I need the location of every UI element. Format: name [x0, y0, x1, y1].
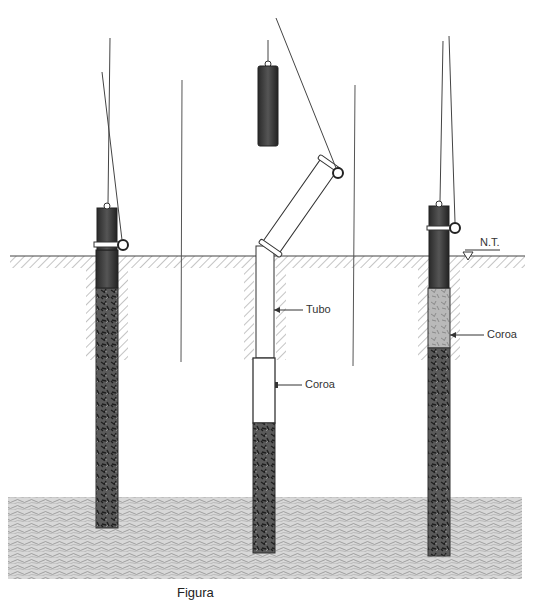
stage-2-tube-placement	[244, 18, 343, 553]
label-ground-level: N.T.	[480, 236, 500, 248]
stage-3-crown-driving	[418, 36, 500, 556]
guide-line-right	[353, 85, 355, 366]
label-tube: Tubo	[306, 303, 331, 315]
label-crown-middle: Coroa	[305, 378, 335, 390]
concrete-pile	[253, 423, 275, 553]
figure-caption: Figura	[177, 585, 214, 600]
collar	[427, 226, 451, 230]
stage-1-driving	[86, 38, 128, 528]
hammer	[258, 66, 278, 146]
pulley-ring	[333, 168, 343, 178]
guide-line-left	[181, 80, 182, 362]
inclined-tube	[263, 159, 337, 252]
concrete-pile	[428, 348, 450, 556]
label-crown-right: Coroa	[487, 328, 517, 340]
hammer	[429, 206, 449, 288]
collar	[94, 242, 120, 247]
light-concrete-section	[428, 288, 450, 348]
tube	[256, 246, 274, 358]
concrete-pile	[96, 288, 118, 528]
pulley-ring	[118, 240, 128, 250]
pulley-ring	[450, 223, 460, 233]
